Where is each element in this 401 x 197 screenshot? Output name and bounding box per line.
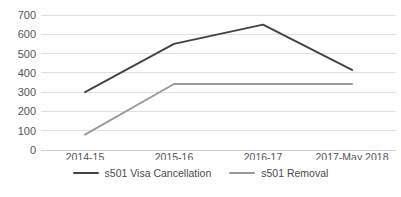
x-tick-label: 2017-May 2018 xyxy=(316,151,389,160)
legend-item-s501-visa-cancellation[interactable]: s501 Visa Cancellation xyxy=(73,168,212,179)
y-axis-labels: 700 600 500 400 300 200 100 0 xyxy=(18,9,36,156)
x-tick-label: 2014-15 xyxy=(66,151,105,160)
y-tick-label: 200 xyxy=(18,105,36,117)
y-tick-label: 600 xyxy=(18,28,36,40)
y-tick-label: 300 xyxy=(18,86,36,98)
plot-area: 700 600 500 400 300 200 100 0 2014-15 20… xyxy=(0,0,401,160)
legend-line-swatch-icon xyxy=(73,172,99,174)
series-line-s501-removal xyxy=(85,84,352,135)
series-group xyxy=(85,25,352,135)
chart-legend: s501 Visa Cancellation s501 Removal xyxy=(0,168,401,179)
x-tick-label: 2016-17 xyxy=(244,151,283,160)
y-tick-label: 100 xyxy=(18,125,36,137)
y-tick-label: 500 xyxy=(18,48,36,60)
y-tick-label: 400 xyxy=(18,67,36,79)
legend-label: s501 Removal xyxy=(261,168,328,179)
legend-item-s501-removal[interactable]: s501 Removal xyxy=(229,168,328,179)
x-tick-label: 2015-16 xyxy=(155,151,194,160)
chart-canvas: 700 600 500 400 300 200 100 0 2014-15 20… xyxy=(0,0,401,160)
y-tick-label: 700 xyxy=(18,9,36,21)
y-tick-label: 0 xyxy=(30,144,36,156)
x-axis-labels: 2014-15 2015-16 2016-17 2017-May 2018 xyxy=(66,151,389,160)
line-chart: 700 600 500 400 300 200 100 0 2014-15 20… xyxy=(0,0,401,197)
legend-label: s501 Visa Cancellation xyxy=(105,168,212,179)
legend-line-swatch-icon xyxy=(229,172,255,174)
